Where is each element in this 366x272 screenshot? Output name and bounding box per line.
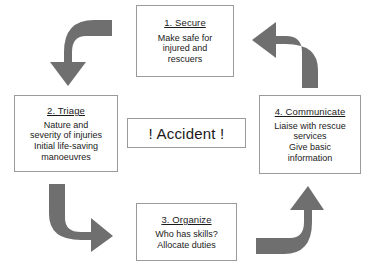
curved-arrow-left-up-icon <box>250 18 318 88</box>
step-line: Give basic <box>289 142 331 153</box>
step-line: Allocate duties <box>157 240 216 251</box>
step-line: Who has skills? <box>155 229 218 240</box>
step-box-secure: 1. Secure Make safe for injured and resc… <box>136 5 234 77</box>
step-line: Nature and <box>44 120 89 131</box>
step-line: services <box>293 131 326 142</box>
step-line: information <box>288 153 333 164</box>
step-heading-communicate: 4. Communicate <box>275 106 346 117</box>
step-heading-organize: 3. Organize <box>161 214 211 225</box>
step-line: Make safe for <box>158 33 213 44</box>
step-box-communicate: 4. Communicate Liaise with rescue servic… <box>259 95 361 174</box>
step-box-organize: 3. Organize Who has skills? Allocate dut… <box>136 203 237 261</box>
center-accident-box: ! Accident ! <box>127 118 246 148</box>
curved-arrow-up-right-icon <box>256 184 326 254</box>
step-line: Liaise with rescue <box>274 121 346 132</box>
step-heading-triage: 2. Triage <box>47 105 85 116</box>
step-line: manoeuvres <box>41 152 91 163</box>
step-line: injured and <box>163 43 208 54</box>
center-accident-label: ! Accident ! <box>149 125 225 142</box>
diagram-canvas: 1. Secure Make safe for injured and resc… <box>0 0 366 272</box>
curved-arrow-down-left-icon <box>46 18 112 88</box>
step-box-triage: 2. Triage Nature and severity of injurie… <box>14 95 118 172</box>
step-line: Initial life-saving <box>34 141 98 152</box>
step-heading-secure: 1. Secure <box>164 17 206 28</box>
curved-arrow-right-down-icon <box>45 184 115 252</box>
step-line: severity of injuries <box>30 130 102 141</box>
step-line: rescuers <box>168 54 203 65</box>
